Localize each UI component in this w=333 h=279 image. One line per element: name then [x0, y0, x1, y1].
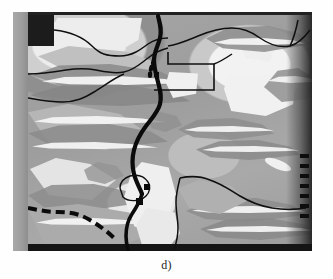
boundary-line-se	[180, 177, 306, 210]
river-node-marker-3	[154, 72, 159, 77]
river-line-main-dotted	[150, 60, 154, 76]
boundary-line-ne-stub	[214, 54, 232, 64]
river-node-marker-2	[136, 198, 143, 205]
boundary-line-se-branch	[174, 178, 180, 250]
river-node-marker-1	[144, 184, 150, 190]
boundary-line-ne	[168, 28, 310, 47]
scan-left-margin-bar	[13, 12, 28, 251]
figure-caption: d)	[0, 258, 333, 273]
river-line-main	[133, 16, 161, 194]
figure-root: d)	[0, 0, 333, 279]
boundary-line-west-lower	[28, 74, 124, 102]
map-image	[13, 12, 312, 251]
boundary-line-sw-dashed	[28, 208, 114, 238]
boundary-line-nw	[54, 30, 168, 56]
raster-terrain-layer	[28, 12, 312, 251]
boundary-line-ne-hook	[290, 20, 298, 46]
vector-overlay	[28, 12, 312, 251]
boundary-rectangle-enclave	[154, 52, 214, 90]
